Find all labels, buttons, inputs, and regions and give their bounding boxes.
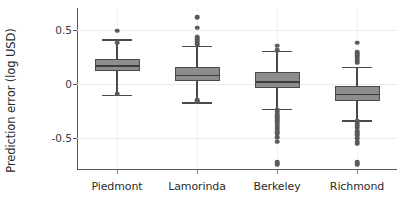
whisker-cap-upper <box>342 67 372 68</box>
whisker-lower <box>356 101 357 120</box>
y-axis-tick-mark <box>73 138 77 139</box>
y-axis-label: Prediction error (log USD) <box>0 0 22 201</box>
outlier-point <box>195 15 200 20</box>
y-axis-tick-label: 0.5 <box>55 24 72 36</box>
y-axis-spine <box>77 8 78 170</box>
outlier-point <box>115 40 120 45</box>
gridline-horizontal <box>77 84 397 85</box>
y-axis-tick-mark <box>73 30 77 31</box>
x-axis-tick-label-berkeley: Berkeley <box>253 180 300 193</box>
outlier-point <box>195 25 200 30</box>
outlier-point <box>115 91 120 96</box>
outlier-point <box>355 162 360 167</box>
plot-area: PiedmontLamorindaBerkeleyRichmond <box>77 8 397 170</box>
outlier-point <box>195 98 200 103</box>
median-line <box>255 81 300 83</box>
outlier-point <box>275 162 280 167</box>
outlier-point <box>355 142 360 147</box>
y-axis-tick-mark <box>73 84 77 85</box>
whisker-upper <box>356 67 357 86</box>
outlier-point <box>275 48 280 53</box>
x-axis-tick-label-richmond: Richmond <box>330 180 384 193</box>
x-axis-spine <box>77 169 397 170</box>
x-axis-tick-mark <box>357 170 358 174</box>
gridline-horizontal <box>77 138 397 139</box>
y-axis-tick-label: -0.5 <box>52 132 73 144</box>
gridline-horizontal <box>77 30 397 31</box>
x-axis-tick-mark <box>117 170 118 174</box>
median-line <box>335 94 380 96</box>
outlier-point <box>355 61 360 66</box>
boxplot-figure: Prediction error (log USD) 0.50-0.5 Pied… <box>0 0 415 201</box>
median-line <box>95 65 140 67</box>
whisker-upper <box>196 46 197 67</box>
x-axis-tick-mark <box>197 170 198 174</box>
median-line <box>175 75 220 77</box>
x-axis-tick-mark <box>277 170 278 174</box>
outlier-point <box>355 40 360 45</box>
x-axis-tick-label-piedmont: Piedmont <box>91 180 142 193</box>
whisker-lower <box>276 88 277 108</box>
outlier-point <box>195 42 200 47</box>
y-axis-tick-label: 0 <box>65 78 72 90</box>
x-axis-tick-label-lamorinda: Lamorinda <box>168 180 226 193</box>
y-axis-tick-labels: 0.50-0.5 <box>46 8 72 170</box>
whisker-upper <box>276 51 277 72</box>
outlier-point <box>275 139 280 144</box>
outlier-point <box>115 29 120 34</box>
